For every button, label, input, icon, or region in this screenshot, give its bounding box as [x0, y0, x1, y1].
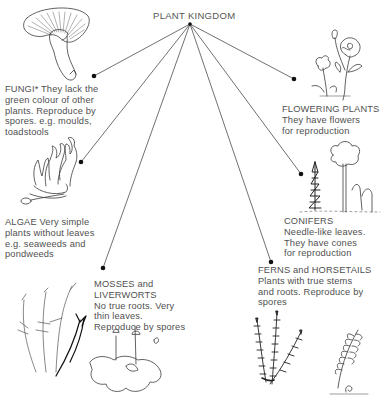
ferns-heading: FERNS and HORSETAILS: [258, 265, 371, 276]
algae-text-line: e.g. seaweeds and: [5, 239, 94, 250]
fungi-label: FUNGI* They lack the green colour of oth…: [5, 84, 98, 138]
fungi-text-line: spores. e.g. moulds,: [5, 116, 98, 127]
mosses-label: MOSSES and LIVERWORTS No true roots. Ver…: [94, 279, 185, 333]
flowering-heading: FLOWERING PLANTS: [282, 104, 379, 115]
flowering-plants-label: FLOWERING PLANTS They have flowers for r…: [282, 104, 379, 136]
conifer-tree-illustration: [300, 142, 380, 213]
algae-label: ALGAE Very simple plants without leaves …: [5, 217, 94, 260]
algae-text-line: Very simple: [40, 217, 90, 227]
conifers-text-line: for reproduction: [284, 248, 365, 259]
fungi-text-line: toadstools: [5, 127, 98, 138]
fungi-text-line: plants. Reproduce by: [5, 106, 98, 117]
ferns-text-line: and roots. Reproduce by: [258, 287, 371, 298]
mosses-text-line: Reproduce by spores: [94, 322, 185, 333]
mosses-text-line: thin leaves.: [94, 311, 185, 322]
diagram-title: PLANT KINGDOM: [153, 10, 235, 21]
fungi-text-line: green colour of other: [5, 95, 98, 106]
flowering-text-line: They have flowers: [282, 115, 379, 126]
mushroom-illustration: [24, 8, 90, 80]
mosses-heading: MOSSES and: [94, 279, 185, 290]
conifers-heading: CONIFERS: [284, 216, 365, 227]
conifers-text-line: They have cones: [284, 238, 365, 249]
algae-heading: ALGAE: [5, 217, 37, 227]
conifers-label: CONIFERS Needle-like leaves. They have c…: [284, 216, 365, 259]
mosses-text-line: LIVERWORTS: [94, 290, 185, 301]
ferns-text-line: Plants with true stems: [258, 276, 371, 287]
fungi-text-line: They lack the: [41, 84, 98, 94]
conifers-text-line: Needle-like leaves.: [284, 227, 365, 238]
fungi-heading: FUNGI*: [5, 84, 38, 94]
rose-flower-illustration: [312, 30, 362, 100]
seaweed-illustration: [21, 137, 77, 204]
fern-horsetail-illustration: [254, 311, 368, 394]
algae-text-line: pondweeds: [5, 249, 94, 260]
illustrations: [0, 0, 385, 402]
ferns-text-line: spores: [258, 297, 371, 308]
flowering-text-line: for reproduction: [282, 126, 379, 137]
algae-text-line: plants without leaves: [5, 228, 94, 239]
ferns-label: FERNS and HORSETAILS Plants with true st…: [258, 265, 371, 308]
mosses-text-line: No true roots. Very: [94, 301, 185, 312]
plant-kingdom-diagram: PLANT KINGDOM FUNGI* They lack the green…: [0, 0, 385, 402]
